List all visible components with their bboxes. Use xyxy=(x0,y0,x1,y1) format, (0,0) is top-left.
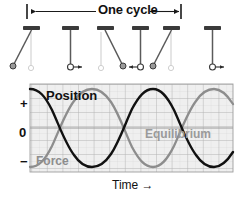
force-curve-label: Force xyxy=(36,154,69,168)
pendulum-shm-figure xyxy=(0,0,238,200)
y-tick-plus: + xyxy=(20,96,28,111)
pendulum-3-bob xyxy=(120,63,126,69)
pendulum-3-ghost-bob xyxy=(98,65,103,70)
pendulum-5-bob xyxy=(150,63,156,69)
equilibrium-label: Equilibrium xyxy=(145,127,211,141)
pendulum-4-pivot xyxy=(132,26,149,30)
y-tick-minus: − xyxy=(20,154,28,169)
time-arrow-icon: → xyxy=(142,178,154,192)
pendulum-1 xyxy=(10,26,40,71)
pendulum-4-bob xyxy=(138,64,144,70)
pendulum-3-pivot xyxy=(97,26,114,30)
pendulum-4 xyxy=(129,26,149,70)
pendulum-6-bob xyxy=(210,64,216,70)
pendulum-6 xyxy=(204,26,224,70)
pendulum-5-pivot xyxy=(163,26,180,30)
pendulum-5 xyxy=(150,26,180,71)
pendulum-1-pivot xyxy=(23,26,40,30)
pendulum-2-pivot xyxy=(62,26,79,30)
pendulum-2-bob xyxy=(68,64,74,70)
time-axis-text: Time xyxy=(112,178,138,192)
y-tick-zero: 0 xyxy=(19,125,26,140)
pendulum-6-pivot xyxy=(204,26,221,30)
pendulum-5-rod xyxy=(154,30,172,64)
time-axis-label: Time → xyxy=(112,178,154,192)
one-cycle-label: One cycle xyxy=(98,2,158,17)
position-curve-label: Position xyxy=(46,88,97,103)
pendulum-3-rod xyxy=(105,30,122,64)
pendulum-3 xyxy=(97,26,126,71)
pendulum-2 xyxy=(62,26,82,70)
pendulum-1-bob xyxy=(10,63,16,69)
pendulum-sequence xyxy=(10,26,224,71)
pendulum-5-ghost-bob xyxy=(168,65,173,70)
pendulum-1-rod xyxy=(14,30,32,64)
pendulum-1-ghost-bob xyxy=(28,65,33,70)
